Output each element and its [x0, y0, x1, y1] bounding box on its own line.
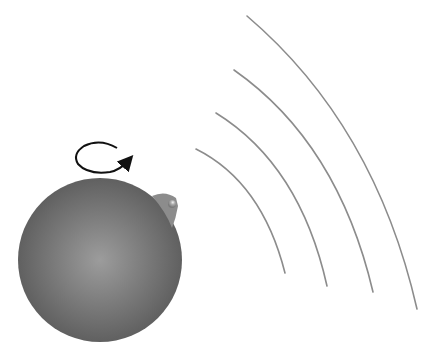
wave-arc-1	[196, 149, 285, 273]
pulsar-diagram	[0, 0, 437, 356]
wave-arc-3	[234, 70, 373, 292]
hotspot-glow	[168, 200, 176, 208]
rotation-arrow-icon	[76, 142, 128, 172]
wave-arcs	[196, 16, 417, 309]
sphere	[18, 178, 182, 342]
wave-arc-2	[216, 113, 327, 286]
